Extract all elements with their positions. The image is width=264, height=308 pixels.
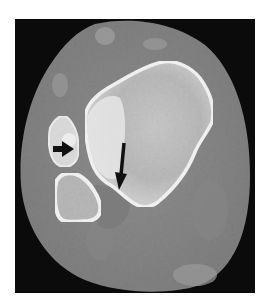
ct-slice	[15, 19, 255, 293]
tissue-blob	[95, 27, 115, 45]
tissue-blob	[192, 180, 228, 240]
tissue-blob	[173, 264, 217, 286]
tissue-blob	[143, 38, 167, 50]
ct-image-frame	[15, 19, 255, 293]
tissue-blob	[52, 73, 68, 97]
